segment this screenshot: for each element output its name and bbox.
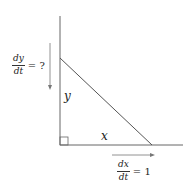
dx-dt-expression: dx dt = 1: [117, 160, 151, 183]
dy-dt-rhs: = ?: [28, 60, 45, 71]
dx-dt-rhs: = 1: [133, 166, 151, 177]
side-x-label: x: [101, 130, 108, 142]
dy-denominator: dt: [14, 66, 23, 77]
dy-dt-expression: dy dt = ?: [12, 54, 45, 77]
right-arrow-icon: [112, 153, 155, 157]
dx-denominator: dt: [119, 172, 128, 183]
triangle-figure: [0, 0, 193, 194]
right-angle-marker: [60, 137, 68, 145]
down-arrow-icon: [48, 43, 52, 90]
related-rates-diagram: y x dy dt = ? dx dt = 1: [0, 0, 193, 194]
dy-numerator: dy: [12, 54, 25, 66]
side-y-label: y: [64, 90, 71, 102]
dx-numerator: dx: [117, 160, 130, 172]
